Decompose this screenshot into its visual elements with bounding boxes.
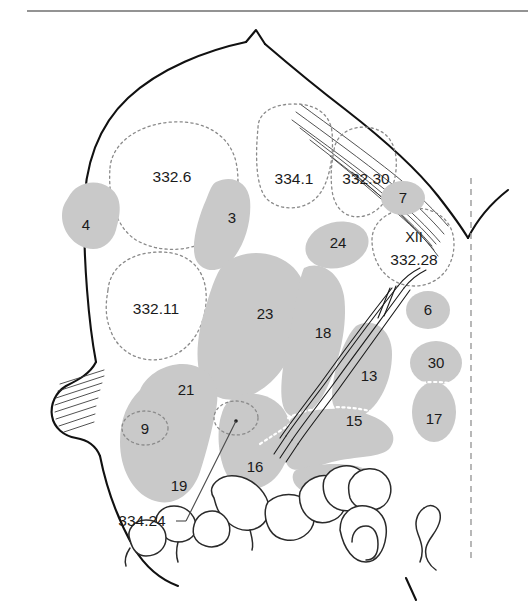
label-structure-9: 9: [141, 420, 149, 437]
label-332-30: 332.30: [342, 170, 390, 187]
bottom-right-diagonal-mark: [406, 578, 416, 600]
label-structure-4: 4: [82, 216, 90, 233]
label-structure-23: 23: [257, 305, 274, 322]
label-structure-7: 7: [399, 189, 407, 206]
label-334-1: 334.1: [275, 170, 314, 187]
label-structure-17: 17: [426, 410, 443, 427]
structure-15-shape: [284, 409, 394, 470]
structure-16-shape: [219, 394, 292, 490]
structure-21-19-shape: [120, 364, 217, 502]
label-structure-15: 15: [346, 412, 363, 429]
label-structure-18: 18: [315, 324, 332, 341]
label-334-24: 334.24: [118, 512, 166, 529]
structure-4-shape: [62, 183, 120, 249]
label-structure-6: 6: [424, 301, 432, 318]
label-structure-3: 3: [228, 209, 236, 226]
shaded-structures-group: [62, 179, 462, 503]
label-structure-16: 16: [247, 458, 264, 475]
label-structure-13: 13: [361, 367, 378, 384]
anatomical-figure: 332.6 334.1 332.30 332.11 XII 332.28 4 3…: [0, 0, 528, 611]
label-332-11: 332.11: [133, 300, 179, 317]
label-structure-24: 24: [330, 234, 347, 251]
label-xii: XII: [405, 229, 423, 245]
label-structure-19: 19: [171, 477, 188, 494]
label-332-28: 332.28: [390, 251, 437, 268]
label-332-6: 332.6: [153, 168, 192, 185]
anatomy-diagram: 332.6 334.1 332.30 332.11 XII 332.28 4 3…: [0, 0, 528, 611]
label-structure-21: 21: [178, 381, 195, 398]
label-structure-30: 30: [428, 354, 445, 371]
